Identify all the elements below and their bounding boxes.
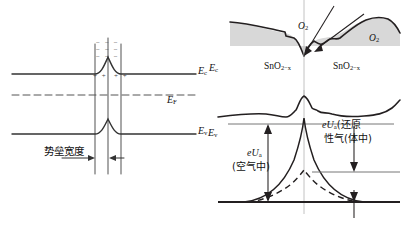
right-bottom-panel-svg: [206, 90, 412, 226]
barrier-reducing-arrow-head-down: [350, 162, 358, 172]
barrier-air-note: (空气中): [232, 161, 270, 172]
barrier-reducing-text-1: (还原: [337, 119, 361, 130]
right-top-panel-svg: [206, 0, 412, 95]
material-left-formula: SnO: [264, 61, 281, 71]
oxygen-right-symbol: O: [369, 33, 376, 43]
negative-charge-row-3: − − −: [96, 54, 119, 61]
material-label-right: SnO2−x: [333, 62, 360, 72]
material-label-left: SnO2−x: [264, 62, 291, 72]
barrier-air-subscript: a: [259, 151, 262, 158]
right-bottom-panel: Ev eUa (空气中) eUa(还原 性气(体中): [206, 90, 412, 226]
figure-root: − − − − − − − − − + + + + Ec EF Ev 势垒宽度: [0, 0, 412, 226]
oxygen-right-subscript: 2: [376, 36, 379, 43]
upper-surface-contour: [218, 96, 400, 117]
oxygen-left-symbol: O: [298, 21, 305, 31]
barrier-reducing-symbol: eU: [322, 119, 334, 130]
oxygen-label-right: O2: [369, 34, 379, 44]
barrier-arrow-left-head: [88, 155, 95, 161]
material-right-formula: SnO: [333, 61, 350, 71]
barrier-air-arrow-head-down: [264, 192, 272, 202]
barrier-reducing-text-2: 性气(体中): [324, 133, 372, 144]
barrier-air-symbol-label: eUa: [247, 148, 262, 159]
material-left-subscript: 2−x: [281, 64, 291, 71]
barrier-air-symbol: eU: [247, 147, 259, 158]
valence-band-curve: [12, 119, 196, 134]
fermi-level-label: EF: [167, 95, 177, 106]
oxygen-label-left: O2: [298, 22, 308, 32]
right-conduction-band-label: Ec: [209, 63, 218, 74]
material-right-subscript: 2−x: [350, 64, 360, 71]
fermi-level-subscript: F: [173, 98, 177, 105]
barrier-width-label: 势垒宽度: [44, 146, 84, 158]
barrier-reducing-line-1: eUa(还原: [322, 119, 361, 131]
left-panel: − − − − − − − − − + + + + Ec EF Ev 势垒宽度: [0, 0, 206, 226]
barrier-arrow-right-head: [109, 155, 116, 161]
positive-charge-right: + +: [114, 73, 128, 80]
right-valence-band-subscript: v: [214, 131, 217, 138]
positive-charge-left: + +: [93, 73, 107, 80]
barrier-air-arrow-head-up: [264, 124, 272, 134]
left-panel-svg: [0, 0, 206, 226]
right-top-panel: O2 O2 Ec SnO2−x SnO2−x: [206, 0, 412, 95]
right-conduction-band-subscript: c: [215, 66, 218, 73]
right-valence-band-label: Ev: [208, 128, 218, 139]
oxygen-left-subscript: 2: [305, 24, 308, 31]
